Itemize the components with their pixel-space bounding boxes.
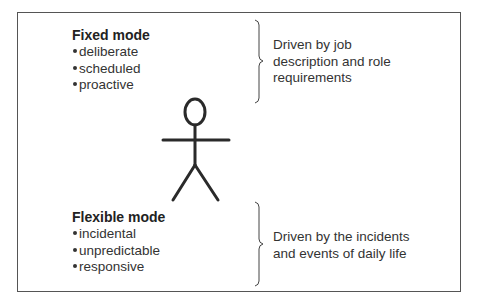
stick-person-icon (163, 99, 229, 200)
brace-icon (255, 202, 263, 286)
brace-icon (255, 20, 263, 103)
diagram-graphics (0, 0, 478, 306)
